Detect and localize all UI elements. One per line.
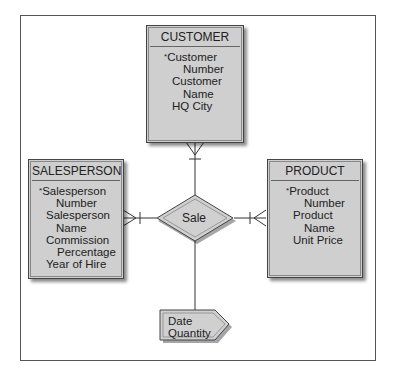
attribute: HQ City [147,100,243,112]
relationship-label: Sale [182,211,206,225]
attribute-key: *Salesperson [29,185,123,197]
attribute: Percentage [29,246,123,258]
entity-title: PRODUCT [271,160,359,181]
attribute: Salesperson [29,209,123,221]
entity-customer: CUSTOMER *Customer Number Customer Name … [146,25,244,143]
attribute: Product [268,209,362,221]
attribute-key: *Customer [147,51,243,63]
entity-title: SALESPERSON [32,160,120,181]
attribute: Commission [29,234,123,246]
entity-salesperson: SALESPERSON *Salesperson Number Salesper… [28,159,124,279]
attribute-quantity: Quantity [168,327,211,339]
intersection-attributes: Date Quantity [168,315,211,339]
attribute-date: Date [168,315,211,327]
attribute-key: *Product [268,185,362,197]
attribute: Number [268,197,362,209]
attribute: Number [29,197,123,209]
attribute: Unit Price [268,234,362,246]
attribute: Name [29,222,123,234]
entity-product: PRODUCT *Product Number Product Name Uni… [267,159,363,278]
attribute: Customer [147,75,243,87]
attribute: Year of Hire [29,258,123,270]
entity-title: CUSTOMER [150,26,240,47]
attribute: Name [268,222,362,234]
attribute: Number [147,63,243,75]
attribute: Name [147,88,243,100]
